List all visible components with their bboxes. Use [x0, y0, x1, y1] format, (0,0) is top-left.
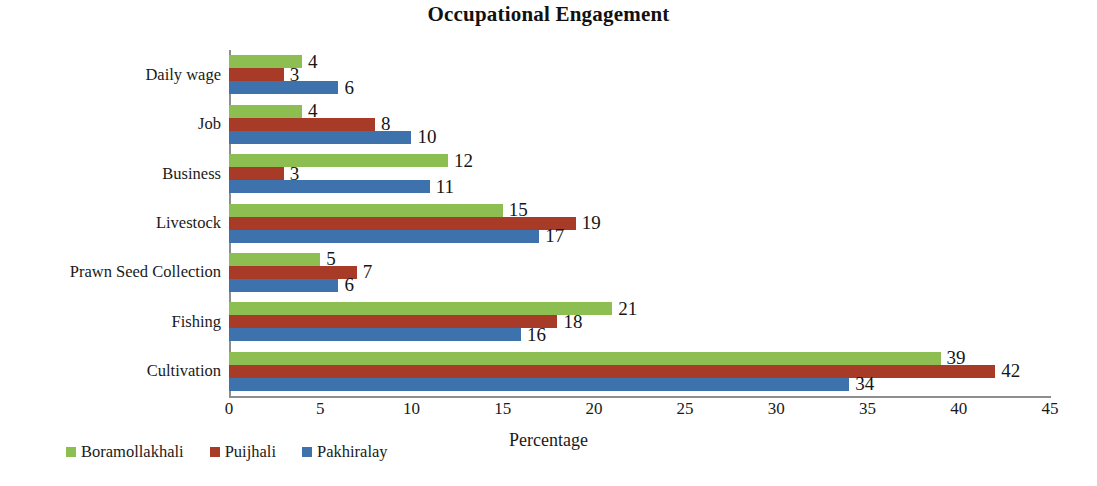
- legend-item[interactable]: Boramollakhali: [66, 444, 184, 461]
- bar-row: 18: [229, 315, 1050, 328]
- bar-row: 4: [229, 105, 1050, 118]
- legend-swatch-icon: [66, 447, 76, 457]
- bar[interactable]: [229, 230, 539, 243]
- legend-label: Pakhiralay: [317, 444, 388, 461]
- bar[interactable]: [229, 81, 338, 94]
- bar[interactable]: [229, 378, 849, 391]
- x-axis-tick-labels: 051015202530354045: [0, 400, 1097, 428]
- bar[interactable]: [229, 204, 503, 217]
- x-tick-label: 20: [585, 400, 602, 417]
- bar-row: 19: [229, 217, 1050, 230]
- bar-row: 12: [229, 154, 1050, 167]
- legend-label: Puijhali: [225, 444, 276, 461]
- bar[interactable]: [229, 217, 576, 230]
- bar[interactable]: [229, 302, 612, 315]
- bar[interactable]: [229, 365, 995, 378]
- category-axis-labels: CultivationFishingPrawn Seed CollectionL…: [0, 50, 221, 396]
- bar-value-label: 17: [545, 226, 564, 245]
- category-label: Prawn Seed Collection: [0, 264, 221, 281]
- plot-area: 394234211816576151917123114810436: [229, 50, 1050, 396]
- category-label: Livestock: [0, 215, 221, 232]
- legend-label: Boramollakhali: [81, 444, 184, 461]
- bar-value-label: 16: [527, 325, 546, 344]
- legend-item[interactable]: Pakhiralay: [302, 444, 388, 461]
- category-label: Job: [0, 116, 221, 133]
- bar-group: 211816: [229, 302, 1050, 341]
- x-tick-label: 5: [316, 400, 325, 417]
- bar-row: 16: [229, 328, 1050, 341]
- bar-row: 21: [229, 302, 1050, 315]
- category-label: Business: [0, 165, 221, 182]
- chart-legend: BoramollakhaliPuijhaliPakhiralay: [66, 444, 388, 461]
- bar-row: 34: [229, 378, 1050, 391]
- bar[interactable]: [229, 154, 448, 167]
- bar-row: 17: [229, 230, 1050, 243]
- bar-row: 39: [229, 352, 1050, 365]
- bar-row: 4: [229, 55, 1050, 68]
- chart-container: Occupational Engagement CultivationFishi…: [0, 0, 1097, 486]
- bar-row: 6: [229, 81, 1050, 94]
- bar[interactable]: [229, 253, 320, 266]
- legend-swatch-icon: [210, 447, 220, 457]
- bar-group: 394234: [229, 352, 1050, 391]
- category-label: Cultivation: [0, 363, 221, 380]
- x-axis-line: [229, 396, 1051, 398]
- bar-row: 6: [229, 279, 1050, 292]
- bar-row: 5: [229, 253, 1050, 266]
- bar-value-label: 10: [417, 127, 436, 146]
- category-label: Fishing: [0, 314, 221, 331]
- bar-row: 11: [229, 180, 1050, 193]
- bar[interactable]: [229, 279, 338, 292]
- bar-value-label: 11: [436, 177, 454, 196]
- x-tick-label: 30: [768, 400, 785, 417]
- bar[interactable]: [229, 315, 557, 328]
- bar[interactable]: [229, 167, 284, 180]
- bar-row: 8: [229, 118, 1050, 131]
- bar-row: 15: [229, 204, 1050, 217]
- chart-title: Occupational Engagement: [0, 2, 1097, 27]
- bar-row: 3: [229, 167, 1050, 180]
- bar-value-label: 6: [344, 78, 354, 97]
- x-tick-label: 15: [494, 400, 511, 417]
- bar[interactable]: [229, 352, 941, 365]
- bar-value-label: 34: [855, 374, 874, 393]
- x-tick-label: 10: [403, 400, 420, 417]
- category-label: Daily wage: [0, 66, 221, 83]
- bar[interactable]: [229, 180, 430, 193]
- bar[interactable]: [229, 328, 521, 341]
- bar-group: 12311: [229, 154, 1050, 193]
- bar-group: 4810: [229, 105, 1050, 144]
- x-tick-label: 25: [677, 400, 694, 417]
- bar-row: 42: [229, 365, 1050, 378]
- bar-value-label: 6: [344, 276, 354, 295]
- x-tick-label: 0: [225, 400, 234, 417]
- x-tick-label: 45: [1042, 400, 1059, 417]
- bar[interactable]: [229, 266, 357, 279]
- bar-row: 10: [229, 131, 1050, 144]
- bar[interactable]: [229, 131, 411, 144]
- bar[interactable]: [229, 68, 284, 81]
- bar-group: 151917: [229, 204, 1050, 243]
- bar-group: 436: [229, 55, 1050, 94]
- bar[interactable]: [229, 118, 375, 131]
- x-tick-label: 35: [859, 400, 876, 417]
- bar-group: 576: [229, 253, 1050, 292]
- legend-item[interactable]: Puijhali: [210, 444, 276, 461]
- x-tick-label: 40: [950, 400, 967, 417]
- bar[interactable]: [229, 105, 302, 118]
- legend-swatch-icon: [302, 447, 312, 457]
